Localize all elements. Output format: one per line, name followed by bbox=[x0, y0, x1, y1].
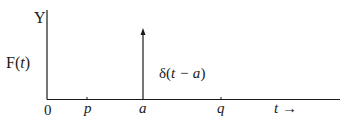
t-axis-var: t bbox=[274, 100, 278, 116]
function-label: F(t) bbox=[6, 55, 30, 71]
function-label-suffix: ) bbox=[25, 54, 30, 71]
y-axis-label: Y bbox=[34, 10, 46, 26]
impulse-label-inner: t − a bbox=[171, 65, 200, 81]
tick-label-q: q bbox=[217, 101, 225, 116]
function-label-prefix: F( bbox=[6, 54, 20, 71]
tick-label-a: a bbox=[139, 101, 147, 116]
tick-label-p: p bbox=[84, 101, 92, 116]
impulse-arrowhead-icon bbox=[141, 28, 146, 35]
right-arrow-icon: → bbox=[282, 100, 297, 116]
impulse-label-suffix: ) bbox=[200, 65, 205, 81]
t-axis-label: t → bbox=[274, 101, 297, 116]
impulse-label: δ(t − a) bbox=[159, 66, 205, 81]
impulse-label-prefix: δ( bbox=[159, 65, 171, 81]
tick-label-0: 0 bbox=[44, 103, 52, 118]
